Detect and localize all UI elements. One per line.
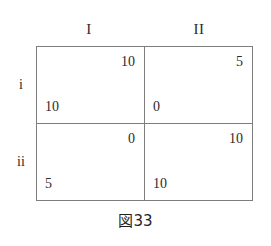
row-header-2: ii (8, 154, 34, 170)
column-header-1: I (69, 19, 109, 39)
payoff-row-player: 5 (45, 176, 52, 192)
payoff-column-player: 10 (229, 131, 243, 147)
payoff-column-player: 0 (128, 131, 135, 147)
figure-caption: 図33 (0, 211, 271, 231)
payoff-column-player: 5 (236, 54, 243, 70)
payoff-row-player: 10 (45, 99, 59, 115)
row-header-1: i (8, 77, 34, 93)
payoff-row-player: 10 (153, 176, 167, 192)
payoff-row-player: 0 (153, 99, 160, 115)
matrix-cell-i-II: 5 0 (145, 47, 252, 124)
payoff-column-player: 10 (121, 54, 135, 70)
matrix-cell-ii-II: 10 10 (145, 124, 252, 200)
payoff-matrix-figure: I II i ii 10 10 5 0 0 5 10 10 図33 (0, 0, 271, 246)
matrix-cell-i-I: 10 10 (37, 47, 145, 124)
matrix-cell-ii-I: 0 5 (37, 124, 145, 200)
column-header-2: II (179, 19, 219, 39)
payoff-matrix-grid: 10 10 5 0 0 5 10 10 (36, 46, 253, 201)
